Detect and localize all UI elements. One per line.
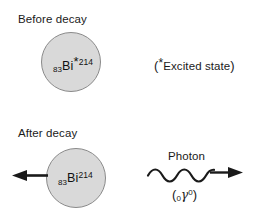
- after-decay-caption: After decay: [18, 128, 77, 140]
- nuclide-label-before: 83Bi*214: [53, 55, 93, 74]
- nuclide-label-after: 83Bi214: [58, 171, 93, 187]
- atomic-number-after: 83: [58, 178, 67, 187]
- element-symbol-after: Bi: [67, 171, 79, 185]
- element-symbol-before: Bi: [62, 59, 74, 73]
- photon-caption: Photon: [168, 151, 205, 163]
- mass-number-before: 214: [79, 57, 93, 67]
- photon-wave-arrow: [148, 167, 243, 182]
- mass-number-after: 214: [78, 170, 92, 180]
- arrow-overlay: [0, 0, 260, 214]
- excited-note-text: Excited state: [163, 60, 230, 72]
- photon-arrow-head: [228, 167, 243, 178]
- photon-symbol-note: (0γ0): [172, 188, 197, 203]
- decay-diagram: Before decay 83Bi*214 (*Excited state) A…: [0, 0, 260, 214]
- recoil-arrow: [12, 170, 48, 181]
- before-decay-caption: Before decay: [18, 14, 87, 26]
- photon-wave-shaft: [148, 170, 214, 182]
- gamma-close-paren: ): [193, 187, 197, 202]
- excited-note-close-paren: ): [230, 58, 234, 73]
- atomic-number-before: 83: [53, 65, 62, 74]
- recoil-arrow-head: [12, 170, 27, 181]
- excited-state-note: (*Excited state): [154, 57, 235, 72]
